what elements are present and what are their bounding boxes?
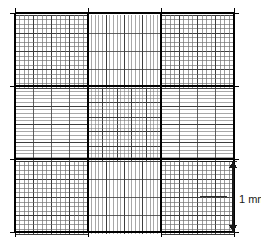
figure-canvas: 1 mm — [0, 0, 261, 245]
centre-fine-ruling — [88, 88, 161, 161]
figure-background — [0, 0, 261, 245]
scale-bar-label: 1 mm — [239, 193, 261, 205]
hemocytometer-grid-diagram: 1 mm — [0, 0, 261, 245]
